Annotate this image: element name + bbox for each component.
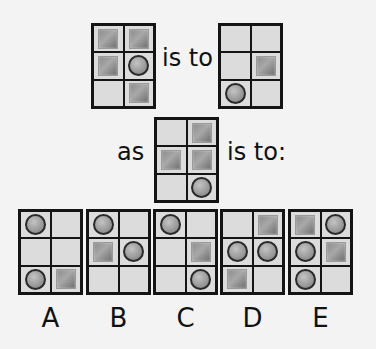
grid-cell xyxy=(94,53,123,78)
question-grid-3 xyxy=(154,117,219,203)
grid-cell xyxy=(52,212,81,237)
grid-cell xyxy=(223,239,252,264)
grid-cell xyxy=(188,147,217,172)
circle-icon xyxy=(225,83,246,104)
grid-cell xyxy=(120,212,149,237)
square-icon xyxy=(326,242,346,262)
grid-cell xyxy=(157,120,186,145)
grid-cell xyxy=(254,267,283,292)
option-label-d[interactable]: D xyxy=(220,305,285,331)
grid-cell xyxy=(291,212,320,237)
square-icon xyxy=(98,56,118,76)
circle-icon xyxy=(123,241,144,262)
circle-icon xyxy=(25,214,46,235)
grid-cell xyxy=(187,212,216,237)
option-grid-b[interactable] xyxy=(86,209,151,295)
grid-cell xyxy=(254,212,283,237)
square-icon xyxy=(98,29,118,49)
grid-cell xyxy=(125,53,154,78)
square-icon xyxy=(191,242,211,262)
circle-icon xyxy=(295,241,316,262)
grid-cell xyxy=(322,239,351,264)
grid-cell xyxy=(94,81,123,106)
grid-cell xyxy=(52,239,81,264)
circle-icon xyxy=(191,177,212,198)
grid-cell xyxy=(291,239,320,264)
square-icon xyxy=(258,215,278,235)
option-grid-c[interactable] xyxy=(153,209,218,295)
grid-cell xyxy=(322,267,351,292)
grid-cell xyxy=(89,267,118,292)
circle-icon xyxy=(160,214,181,235)
option-label-e[interactable]: E xyxy=(288,305,353,331)
option-label-b[interactable]: B xyxy=(86,305,151,331)
circle-icon xyxy=(295,269,316,290)
circle-icon xyxy=(128,55,149,76)
circle-icon xyxy=(190,269,211,290)
grid-cell xyxy=(188,175,217,200)
grid-cell xyxy=(120,267,149,292)
square-icon xyxy=(161,150,181,170)
grid-cell xyxy=(187,267,216,292)
grid-cell xyxy=(221,81,250,106)
grid-cell xyxy=(89,212,118,237)
square-icon xyxy=(227,269,247,289)
circle-icon xyxy=(257,241,278,262)
grid-cell xyxy=(252,81,281,106)
grid-cell xyxy=(157,147,186,172)
grid-cell xyxy=(125,81,154,106)
grid-cell xyxy=(254,239,283,264)
square-icon xyxy=(192,123,212,143)
grid-cell xyxy=(223,267,252,292)
grid-cell xyxy=(252,26,281,51)
option-label-c[interactable]: C xyxy=(153,305,218,331)
grid-cell xyxy=(156,212,185,237)
circle-icon xyxy=(325,214,346,235)
option-grid-d[interactable] xyxy=(220,209,285,295)
grid-cell xyxy=(221,53,250,78)
grid-cell xyxy=(89,239,118,264)
grid-cell xyxy=(291,267,320,292)
is-to-colon-text: is to: xyxy=(227,140,286,164)
grid-cell xyxy=(21,212,50,237)
square-icon xyxy=(56,269,76,289)
grid-cell xyxy=(21,239,50,264)
as-text: as xyxy=(117,140,144,164)
question-grid-2 xyxy=(218,23,283,109)
square-icon xyxy=(256,56,276,76)
square-icon xyxy=(295,215,315,235)
grid-cell xyxy=(52,267,81,292)
grid-cell xyxy=(221,26,250,51)
grid-cell xyxy=(156,267,185,292)
option-grid-a[interactable] xyxy=(18,209,83,295)
grid-cell xyxy=(187,239,216,264)
grid-cell xyxy=(120,239,149,264)
grid-cell xyxy=(156,239,185,264)
circle-icon xyxy=(93,214,114,235)
grid-cell xyxy=(157,175,186,200)
is-to-text: is to xyxy=(162,46,213,70)
grid-cell xyxy=(252,53,281,78)
grid-cell xyxy=(94,26,123,51)
option-grid-e[interactable] xyxy=(288,209,353,295)
square-icon xyxy=(192,150,212,170)
square-icon xyxy=(93,242,113,262)
option-label-a[interactable]: A xyxy=(18,305,83,331)
grid-cell xyxy=(322,212,351,237)
grid-cell xyxy=(21,267,50,292)
square-icon xyxy=(129,83,149,103)
square-icon xyxy=(129,29,149,49)
circle-icon xyxy=(227,241,248,262)
grid-cell xyxy=(223,212,252,237)
circle-icon xyxy=(25,269,46,290)
question-grid-1 xyxy=(91,23,156,109)
grid-cell xyxy=(125,26,154,51)
grid-cell xyxy=(188,120,217,145)
